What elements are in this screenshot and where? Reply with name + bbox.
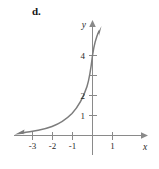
figure-container: d. -3 -2 -1 1 1 2 4 bbox=[0, 0, 159, 169]
y-tick-label-2: 2 bbox=[81, 91, 86, 101]
y-tick-label-1: 1 bbox=[81, 111, 86, 121]
x-tick-label-neg1: -1 bbox=[69, 141, 77, 151]
y-tick-label-4: 4 bbox=[81, 51, 86, 61]
x-axis-arrowhead bbox=[141, 132, 148, 139]
y-axis-arrowhead bbox=[89, 20, 96, 27]
y-axis-label: y bbox=[81, 20, 87, 30]
x-tick-label-neg3: -3 bbox=[29, 141, 37, 151]
x-tick-label-pos1: 1 bbox=[110, 141, 115, 151]
x-axis-label: x bbox=[142, 142, 148, 152]
coordinate-plot: -3 -2 -1 1 1 2 4 x y bbox=[0, 0, 159, 169]
exponential-curve bbox=[20, 31, 99, 133]
x-tick-label-neg2: -2 bbox=[49, 141, 57, 151]
